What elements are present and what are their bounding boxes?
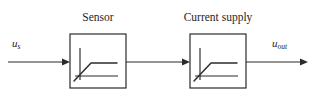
arrowhead-output: [300, 59, 308, 66]
arrowhead-input: [62, 59, 70, 66]
block-current-supply: [190, 34, 246, 88]
arrowhead-current-supply: [182, 59, 190, 66]
block-sensor: [70, 34, 126, 88]
block-diagram: Sensor Current supply us uout τ1 τ2: [0, 0, 316, 100]
diagram-canvas: [0, 0, 316, 100]
